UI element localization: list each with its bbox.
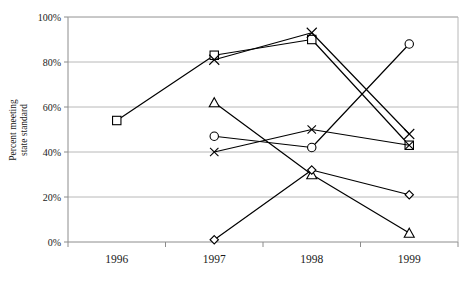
y-tick-label: 60% — [43, 102, 61, 113]
y-tick-label: 80% — [43, 57, 61, 68]
y-tick-label: 40% — [43, 147, 61, 158]
x-tick-label: 1997 — [203, 253, 226, 265]
y-axis-title: Percent meetingstate standard — [8, 99, 29, 161]
marker-circle — [210, 132, 218, 140]
line-chart: 0%20%40%60%80%100%1996199719981999Percen… — [0, 0, 470, 283]
y-tick-label: 0% — [48, 237, 61, 248]
marker-circle — [405, 40, 413, 48]
y-axis-title-line-1: Percent meeting — [8, 99, 18, 161]
y-axis-title-line-2: state standard — [19, 104, 29, 156]
y-tick-label: 100% — [38, 12, 61, 23]
x-tick-label: 1999 — [398, 253, 421, 265]
y-tick-label: 20% — [43, 192, 61, 203]
chart-canvas: 0%20%40%60%80%100%1996199719981999Percen… — [0, 0, 470, 283]
chart-background — [0, 0, 470, 283]
marker-square — [210, 51, 218, 59]
x-tick-label: 1998 — [300, 253, 323, 265]
marker-circle — [308, 143, 316, 151]
x-tick-label: 1996 — [105, 253, 128, 265]
marker-square — [113, 116, 121, 124]
